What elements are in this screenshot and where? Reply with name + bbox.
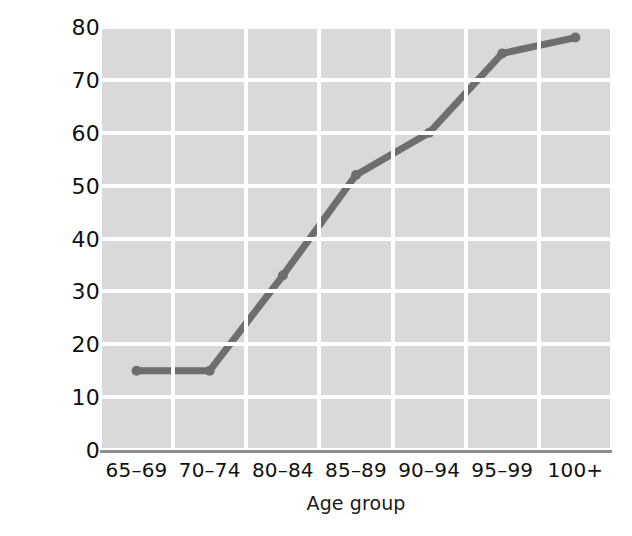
y-gridline (100, 78, 612, 82)
x-gridline (610, 27, 612, 450)
data-point-marker (278, 271, 288, 281)
y-gridline (100, 131, 612, 135)
x-gridline (317, 27, 321, 450)
y-tick-label: 80 (48, 15, 100, 40)
y-tick-label: 50 (48, 173, 100, 198)
y-tick-label: 20 (48, 332, 100, 357)
x-axis-tick-labels: 65–6970–7480–8485–8990–9495–99100+ (100, 458, 612, 488)
plot-area (100, 27, 612, 450)
y-axis-tick-labels: 01020304050607080 (48, 27, 100, 450)
x-gridline (464, 27, 468, 450)
data-point-marker (497, 48, 507, 58)
x-tick-label: 70–74 (179, 458, 241, 482)
data-point-marker (570, 33, 580, 43)
x-gridline (100, 27, 102, 450)
y-tick-label: 10 (48, 385, 100, 410)
y-gridline (100, 395, 612, 399)
x-axis-spine (100, 450, 612, 453)
x-gridline (391, 27, 395, 450)
y-tick-label: 70 (48, 67, 100, 92)
y-tick-label: 40 (48, 226, 100, 251)
y-tick-label: 0 (48, 438, 100, 463)
x-tick-label: 100+ (548, 458, 604, 482)
y-tick-label: 60 (48, 120, 100, 145)
y-tick-label: 30 (48, 279, 100, 304)
x-tick-label: 90–94 (398, 458, 460, 482)
x-gridline (537, 27, 541, 450)
data-point-marker (351, 170, 361, 180)
x-tick-label: 65–69 (106, 458, 168, 482)
y-gridline (100, 289, 612, 293)
x-tick-label: 95–99 (471, 458, 533, 482)
x-gridline (244, 27, 248, 450)
y-gridline (100, 27, 612, 29)
x-tick-label: 85–89 (325, 458, 387, 482)
y-gridline (100, 342, 612, 346)
x-axis-title: Age group (100, 492, 612, 514)
series-polyline (137, 38, 576, 371)
chart-figure: Percent with a disability 01020304050607… (0, 0, 632, 536)
y-gridline (100, 184, 612, 188)
data-point-marker (132, 366, 142, 376)
y-gridline (100, 237, 612, 241)
x-gridline (171, 27, 175, 450)
data-point-marker (205, 366, 215, 376)
x-tick-label: 80–84 (252, 458, 314, 482)
